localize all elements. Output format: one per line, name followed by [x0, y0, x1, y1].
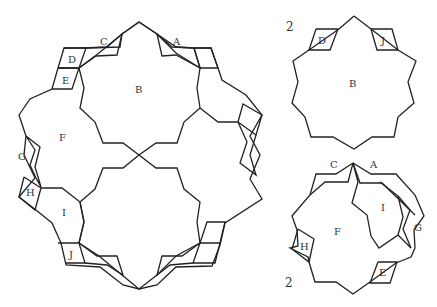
piece-bottom-label-f: F — [334, 226, 341, 237]
piece-top-count: 2 — [286, 20, 294, 34]
main-label-a: A — [172, 36, 181, 47]
piece-top-label-j: J — [380, 35, 385, 46]
main-figure: C A D E B F G H I J — [18, 22, 262, 289]
piece-bottom-label-c: C — [330, 159, 338, 170]
main-label-d: D — [68, 54, 76, 65]
main-label-g: G — [18, 151, 26, 162]
piece-top-label-d: D — [318, 35, 326, 46]
piece-top-figure: 2 D J B — [286, 16, 416, 149]
piece-bottom-count: 2 — [285, 276, 293, 290]
piece-bottom-label-g: G — [414, 222, 422, 233]
dissection-diagram: C A D E B F G H I J 2 D J B C A I F G H … — [0, 0, 437, 307]
top-right-rhombus — [194, 48, 218, 68]
lower-star-outline — [79, 155, 200, 289]
main-label-j: J — [68, 249, 73, 260]
main-label-h: H — [26, 187, 35, 198]
piece-bottom-outline — [290, 163, 424, 294]
main-label-b: B — [135, 84, 142, 95]
main-label-c: C — [100, 36, 108, 47]
piece-bottom-figure: C A I F G H E 2 — [285, 159, 424, 294]
piece-bottom-label-e: E — [379, 267, 386, 278]
piece-bottom-label-a: A — [369, 159, 378, 170]
main-label-e: E — [62, 75, 69, 86]
main-label-i: I — [62, 207, 66, 218]
bottom-left-sliver — [79, 243, 123, 275]
piece-bottom-label-h: H — [300, 241, 309, 252]
main-label-f: F — [59, 132, 66, 143]
piece-bottom-label-i: I — [381, 202, 385, 213]
piece-bottom-i-region — [352, 163, 403, 248]
piece-top-label-b: B — [349, 78, 356, 89]
bottom-right-sliver — [157, 243, 200, 275]
